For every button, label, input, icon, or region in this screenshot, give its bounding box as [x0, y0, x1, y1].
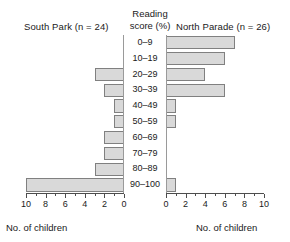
bar-row: [26, 114, 124, 130]
center-axis-title: Reading score (%): [126, 8, 174, 31]
left-bars-panel: [26, 35, 124, 193]
reading-score-pyramid-chart: South Park (n = 24) Reading score (%) No…: [0, 0, 290, 242]
axis-tick-label: 2: [102, 199, 107, 209]
axis-tick-major: [264, 194, 265, 198]
right-bars-panel: [166, 35, 264, 193]
axis-tick-major: [244, 194, 245, 198]
bar-row: [166, 35, 264, 51]
bar-left-30-39: [104, 84, 124, 97]
axis-tick-label: 4: [82, 199, 87, 209]
right-zero-edge: [166, 35, 167, 193]
bar-row: [26, 130, 124, 146]
bar-row: [26, 177, 124, 193]
left-panel-title: South Park (n = 24): [24, 21, 109, 32]
axis-tick-label: 6: [222, 199, 227, 209]
right-axis-caption: No. of children: [196, 222, 257, 233]
bar-row: [166, 161, 264, 177]
category-label: 20–29: [124, 67, 166, 83]
bar-right-90-100: [166, 178, 176, 191]
bar-row: [26, 67, 124, 83]
axis-tick-minor: [176, 194, 177, 196]
bar-left-60-69: [104, 131, 124, 144]
axis-tick-minor: [254, 194, 255, 196]
bar-right-10-19: [166, 52, 225, 65]
axis-tick-major: [46, 194, 47, 198]
axis-tick-label: 4: [203, 199, 208, 209]
axis-tick-label: 0: [163, 199, 168, 209]
bar-left-80-89: [95, 163, 124, 176]
bar-row: [26, 82, 124, 98]
category-label: 10–19: [124, 51, 166, 67]
category-label: 30–39: [124, 82, 166, 98]
bar-row: [166, 146, 264, 162]
axis-tick-label: 6: [63, 199, 68, 209]
bar-row: [26, 98, 124, 114]
bar-right-40-49: [166, 99, 176, 112]
axis-tick-major: [186, 194, 187, 198]
bar-row: [166, 51, 264, 67]
bar-row: [26, 161, 124, 177]
category-label-column: 0–910–1920–2930–3940–4950–5960–6970–7980…: [124, 35, 166, 193]
axis-tick-major: [225, 194, 226, 198]
axis-tick-minor: [195, 194, 196, 196]
axis-tick-major: [26, 194, 27, 198]
center-axis-title-line2: score (%): [126, 20, 174, 32]
axis-tick-label: 0: [121, 199, 126, 209]
bar-left-70-79: [104, 147, 124, 160]
category-label: 70–79: [124, 146, 166, 162]
bar-row: [26, 146, 124, 162]
axis-tick-label: 2: [183, 199, 188, 209]
bar-row: [26, 51, 124, 67]
axis-tick-major: [166, 194, 167, 198]
category-label: 0–9: [124, 35, 166, 51]
center-axis-title-line1: Reading: [126, 8, 174, 20]
axis-tick-minor: [235, 194, 236, 196]
axis-tick-minor: [215, 194, 216, 196]
category-label: 80–89: [124, 161, 166, 177]
axis-tick-major: [104, 194, 105, 198]
axis-tick-label: 10: [259, 199, 269, 209]
axis-tick-minor: [114, 194, 115, 196]
category-label: 90–100: [124, 177, 166, 193]
category-label: 50–59: [124, 114, 166, 130]
bar-left-20-29: [95, 68, 124, 81]
left-zero-edge: [123, 35, 124, 193]
axis-tick-minor: [75, 194, 76, 196]
left-axis-caption: No. of children: [6, 222, 67, 233]
right-panel-title: North Parade (n = 26): [176, 21, 270, 32]
bar-right-20-29: [166, 68, 205, 81]
bar-row: [166, 177, 264, 193]
bar-row: [26, 35, 124, 51]
bar-right-0-9: [166, 36, 235, 49]
axis-tick-label: 8: [242, 199, 247, 209]
bar-right-50-59: [166, 115, 176, 128]
axis-tick-major: [65, 194, 66, 198]
axis-tick-minor: [55, 194, 56, 196]
bar-row: [166, 82, 264, 98]
bar-row: [166, 114, 264, 130]
axis-tick-major: [205, 194, 206, 198]
plot-area: 0–910–1920–2930–3940–4950–5960–6970–7980…: [0, 35, 290, 193]
bar-left-90-100: [26, 178, 124, 191]
bar-row: [166, 130, 264, 146]
bar-right-30-39: [166, 84, 225, 97]
category-label: 60–69: [124, 130, 166, 146]
axis-tick-major: [124, 194, 125, 198]
bar-row: [166, 98, 264, 114]
axis-tick-minor: [36, 194, 37, 196]
axis-tick-label: 10: [21, 199, 31, 209]
axis-tick-label: 8: [43, 199, 48, 209]
bar-row: [166, 67, 264, 83]
axis-tick-major: [85, 194, 86, 198]
category-label: 40–49: [124, 98, 166, 114]
axis-tick-minor: [95, 194, 96, 196]
